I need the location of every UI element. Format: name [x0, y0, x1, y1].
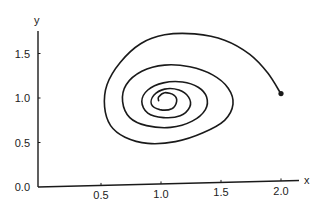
x-tick-label: 1.5	[213, 186, 228, 198]
y-tick-label: 0.5	[15, 137, 30, 149]
spiral-chart: y x 0.51.01.52.0 0.00.51.01.5	[0, 0, 324, 221]
spiral-curve	[104, 33, 281, 143]
y-tick-label: 1.5	[15, 48, 30, 60]
axes: y x	[34, 14, 310, 187]
y-axis-label: y	[34, 14, 40, 26]
y-tick-label: 1.0	[15, 92, 30, 104]
x-tick-label: 0.5	[93, 189, 108, 201]
x-tick-label: 2.0	[273, 185, 288, 197]
x-tick-label: 1.0	[153, 188, 168, 200]
y-ticks: 0.00.51.01.5	[15, 48, 41, 194]
start-point-marker	[278, 91, 283, 96]
y-tick-label: 0.0	[15, 181, 30, 193]
x-axis-line	[38, 181, 299, 188]
x-axis-label: x	[304, 174, 310, 186]
